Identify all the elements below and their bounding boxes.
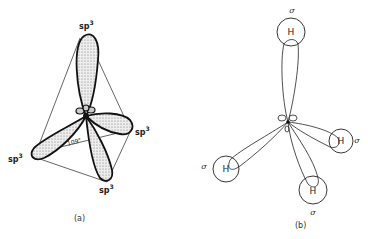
h-label-top: H [288, 28, 295, 37]
orbital-sup: 3 [110, 183, 114, 190]
h-label-left: H [223, 165, 230, 174]
sp3-label-bottom: sp3 [99, 184, 114, 195]
carbon-nucleus-b [286, 120, 290, 124]
diagram-canvas [0, 0, 368, 239]
h-label-right: H [338, 137, 345, 146]
orbital-text: sp [79, 22, 90, 31]
lobe-top [77, 34, 99, 116]
sigma-label-right: σ [354, 137, 359, 145]
sigma-label-top: σ [289, 7, 294, 15]
orbital-text: sp [135, 128, 146, 137]
sp3-label-top: sp3 [79, 20, 94, 31]
hydrogen-circles [213, 18, 353, 204]
sigma-label-left: σ [201, 163, 206, 171]
h-label-bottom: H [310, 187, 317, 196]
sp3-label-left: sp3 [8, 153, 23, 164]
caption-b: (b) [295, 222, 306, 230]
orbital-sup: 3 [19, 152, 23, 159]
orbital-sup: 3 [90, 19, 94, 26]
sp3-label-right: sp3 [135, 126, 150, 137]
orbital-sup: 3 [146, 125, 150, 132]
orbital-text: sp [8, 155, 19, 164]
bond-orbitals [229, 40, 339, 187]
caption-a: (a) [74, 215, 85, 223]
carbon-nucleus [83, 113, 89, 119]
sigma-label-bottom: σ [310, 209, 315, 217]
orbital-text: sp [99, 186, 110, 195]
